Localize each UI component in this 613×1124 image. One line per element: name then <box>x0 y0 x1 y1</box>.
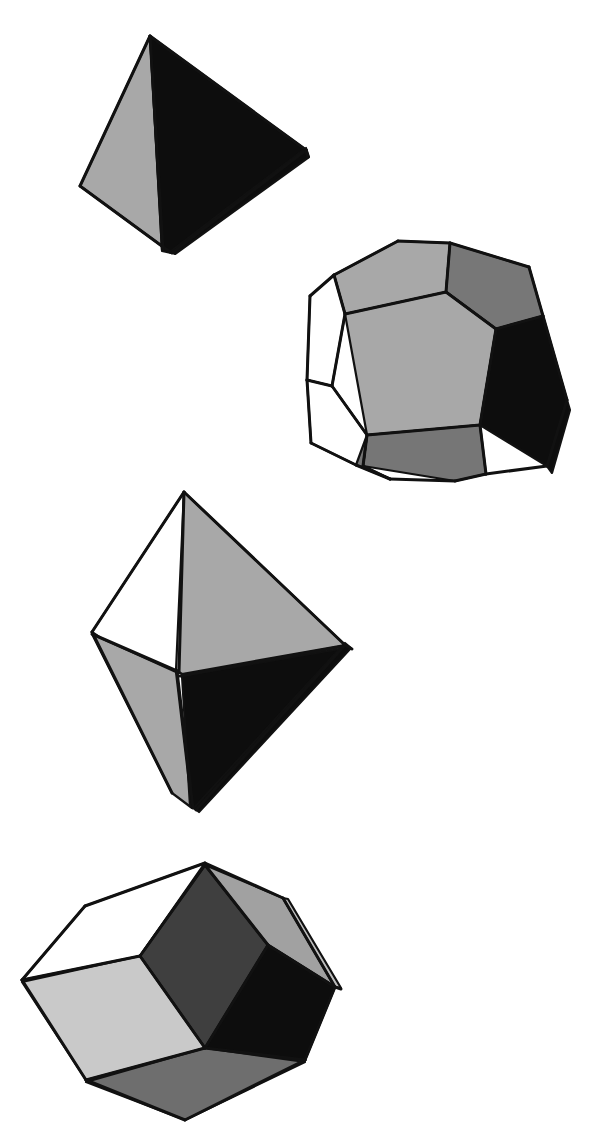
polyhedra-canvas <box>0 0 613 1124</box>
polyhedra-plate <box>0 0 613 1124</box>
dodecahedron-edge-1 <box>398 241 450 243</box>
rhombic-dodecahedron-edge-16 <box>335 987 341 989</box>
tetrahedron-edge-5 <box>306 150 308 157</box>
dodecahedron-edge-8 <box>390 479 455 481</box>
